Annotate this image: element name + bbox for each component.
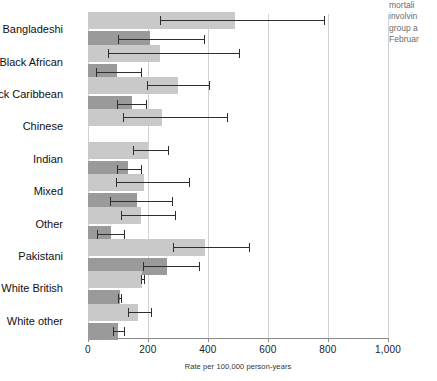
error-bar-dark-mixed bbox=[110, 197, 173, 206]
error-bar-cap-low bbox=[123, 113, 124, 122]
error-bar-cap-low bbox=[118, 35, 119, 44]
gridline-1000 bbox=[388, 14, 389, 338]
error-bar-light-bangladeshi bbox=[160, 16, 325, 25]
error-bar-line bbox=[123, 117, 228, 118]
error-bar-line bbox=[173, 247, 250, 248]
error-bar-cap-high bbox=[172, 197, 173, 206]
error-bar-light-other bbox=[121, 211, 176, 220]
error-bar-cap-low bbox=[117, 165, 118, 174]
error-bar-cap-low bbox=[97, 230, 98, 239]
error-bar-line bbox=[160, 20, 325, 21]
category-label-white-other: White other bbox=[0, 315, 63, 327]
error-bar-line bbox=[143, 266, 200, 267]
error-bar-dark-indian bbox=[117, 165, 143, 174]
margin-note-line-1: mortali bbox=[389, 0, 437, 11]
error-bar-cap-high bbox=[144, 275, 145, 284]
category-label-black-african: Black African bbox=[0, 56, 63, 68]
error-bar-line bbox=[108, 53, 240, 54]
error-bar-cap-high bbox=[249, 243, 250, 252]
category-label-mixed: Mixed bbox=[0, 185, 63, 197]
error-bar-line bbox=[118, 39, 205, 40]
error-bar-cap-low bbox=[133, 146, 134, 155]
gridline-400 bbox=[208, 14, 209, 338]
error-bar-cap-high bbox=[121, 294, 122, 303]
x-axis-label: Rate per 100,000 person-years bbox=[88, 362, 388, 371]
error-bar-light-white-british bbox=[141, 275, 146, 284]
x-tick-label-400: 400 bbox=[178, 344, 238, 355]
x-tick-200 bbox=[148, 338, 149, 342]
error-bar-cap-high bbox=[324, 16, 325, 25]
category-label-chinese: Chinese bbox=[0, 120, 63, 132]
cropped-margin-note: mortali involvin group a Februar bbox=[389, 0, 437, 46]
x-tick-label-1000: 1,000 bbox=[358, 344, 418, 355]
error-bar-dark-pakistani bbox=[143, 262, 200, 271]
x-tick-1000 bbox=[388, 338, 389, 342]
error-bar-line bbox=[96, 72, 143, 73]
error-bar-line bbox=[110, 201, 173, 202]
error-bar-cap-low bbox=[113, 327, 114, 336]
error-bar-cap-high bbox=[204, 35, 205, 44]
error-bar-cap-high bbox=[124, 327, 125, 336]
error-bar-line bbox=[133, 150, 169, 151]
category-label-pakistani: Pakistani bbox=[0, 250, 63, 262]
error-bar-line bbox=[116, 182, 190, 183]
error-bar-cap-high bbox=[175, 211, 176, 220]
error-bar-line bbox=[97, 234, 125, 235]
error-bar-dark-bangladeshi bbox=[118, 35, 205, 44]
x-tick-label-200: 200 bbox=[118, 344, 178, 355]
error-bar-cap-low bbox=[108, 49, 109, 58]
error-bar-cap-low bbox=[116, 178, 117, 187]
error-bar-light-mixed bbox=[116, 178, 190, 187]
error-bar-line bbox=[117, 169, 143, 170]
error-bar-cap-high bbox=[146, 100, 147, 109]
category-label-indian: Indian bbox=[0, 153, 63, 165]
error-bar-line bbox=[121, 215, 176, 216]
error-bar-cap-high bbox=[227, 113, 228, 122]
error-bar-cap-low bbox=[121, 211, 122, 220]
x-tick-400 bbox=[208, 338, 209, 342]
error-bar-light-chinese bbox=[123, 113, 228, 122]
x-tick-label-600: 600 bbox=[238, 344, 298, 355]
category-label-other: Other bbox=[0, 218, 63, 230]
error-bar-cap-low bbox=[141, 275, 142, 284]
category-label-bangladeshi: Bangladeshi bbox=[0, 23, 63, 35]
error-bar-dark-white-other bbox=[113, 327, 125, 336]
error-bar-cap-low bbox=[147, 81, 148, 90]
error-bar-cap-low bbox=[96, 68, 97, 77]
error-bar-cap-high bbox=[124, 230, 125, 239]
error-bar-cap-low bbox=[110, 197, 111, 206]
error-bar-cap-low bbox=[173, 243, 174, 252]
x-tick-label-0: 0 bbox=[58, 344, 118, 355]
error-bar-dark-other bbox=[97, 230, 125, 239]
error-bar-cap-low bbox=[143, 262, 144, 271]
error-bar-cap-low bbox=[160, 16, 161, 25]
error-bar-cap-low bbox=[128, 308, 129, 317]
error-bar-dark-white-british bbox=[118, 294, 122, 303]
ethnicity-rate-chart: Rate per 100,000 person-years mortali in… bbox=[0, 0, 437, 381]
error-bar-cap-low bbox=[117, 100, 118, 109]
error-bar-cap-low bbox=[118, 294, 119, 303]
bar-light-white-british bbox=[88, 271, 142, 288]
error-bar-line bbox=[147, 85, 210, 86]
gridline-800 bbox=[328, 14, 329, 338]
error-bar-dark-black-african bbox=[96, 68, 143, 77]
error-bar-light-white-other bbox=[128, 308, 152, 317]
margin-note-line-3: group a bbox=[389, 23, 437, 34]
gridline-600 bbox=[268, 14, 269, 338]
error-bar-dark-black-caribbean bbox=[117, 100, 147, 109]
x-tick-800 bbox=[328, 338, 329, 342]
x-axis-line bbox=[88, 338, 389, 339]
error-bar-cap-high bbox=[209, 81, 210, 90]
gridline-200 bbox=[148, 14, 149, 338]
error-bar-cap-high bbox=[141, 68, 142, 77]
category-label-white-british: White British bbox=[0, 282, 63, 294]
category-label-black-caribbean: Black Caribbean bbox=[0, 88, 63, 100]
error-bar-light-pakistani bbox=[173, 243, 250, 252]
margin-note-line-4: Februar bbox=[389, 34, 437, 45]
error-bar-cap-high bbox=[239, 49, 240, 58]
error-bar-light-indian bbox=[133, 146, 169, 155]
error-bar-cap-high bbox=[199, 262, 200, 271]
error-bar-cap-high bbox=[189, 178, 190, 187]
margin-note-line-2: involvin bbox=[389, 11, 437, 22]
x-tick-600 bbox=[268, 338, 269, 342]
